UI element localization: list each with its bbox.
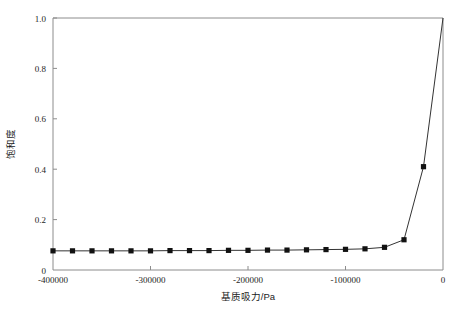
y-tick-label: 0.8 xyxy=(35,64,47,74)
data-point-marker xyxy=(245,248,250,253)
data-point-marker xyxy=(148,248,153,253)
x-axis-title: 基质吸力/Pa xyxy=(221,291,276,302)
data-point-marker xyxy=(70,248,75,253)
y-tick-label: 0.2 xyxy=(35,215,46,225)
axis-frame xyxy=(53,18,443,270)
data-point-marker xyxy=(226,248,231,253)
x-tick-label: -300000 xyxy=(136,275,166,285)
plot-frame xyxy=(53,18,443,270)
y-axis-title: 饱和度 xyxy=(5,129,16,159)
data-series-markers xyxy=(50,164,426,253)
data-point-marker xyxy=(323,247,328,252)
x-tick-label: 0 xyxy=(441,275,446,285)
data-point-marker xyxy=(304,247,309,252)
chart-figure: -400000-300000-200000-1000000 00.20.40.6… xyxy=(0,0,461,317)
data-point-marker xyxy=(382,245,387,250)
data-point-marker xyxy=(50,248,55,253)
chart-svg: -400000-300000-200000-1000000 00.20.40.6… xyxy=(0,0,461,317)
y-axis-ticks xyxy=(53,18,57,220)
data-point-marker xyxy=(109,248,114,253)
data-point-marker xyxy=(206,248,211,253)
data-point-marker xyxy=(167,248,172,253)
data-point-marker xyxy=(128,248,133,253)
data-point-marker xyxy=(362,246,367,251)
data-series-line xyxy=(53,18,443,251)
y-tick-label: 1.0 xyxy=(35,14,47,24)
y-tick-label: 0.4 xyxy=(35,165,47,175)
y-axis-tick-labels: 00.20.40.60.81.0 xyxy=(35,14,47,276)
data-point-marker xyxy=(89,248,94,253)
x-axis-ticks xyxy=(151,266,346,270)
y-tick-label: 0.6 xyxy=(35,114,47,124)
data-point-marker xyxy=(187,248,192,253)
data-point-marker xyxy=(401,237,406,242)
data-point-marker xyxy=(284,247,289,252)
data-point-marker xyxy=(343,247,348,252)
y-tick-label: 0 xyxy=(42,266,47,276)
data-point-marker xyxy=(265,247,270,252)
x-tick-label: -100000 xyxy=(331,275,361,285)
x-tick-label: -200000 xyxy=(233,275,263,285)
data-point-marker xyxy=(421,164,426,169)
x-tick-label: -400000 xyxy=(38,275,68,285)
x-axis-tick-labels: -400000-300000-200000-1000000 xyxy=(38,275,446,285)
